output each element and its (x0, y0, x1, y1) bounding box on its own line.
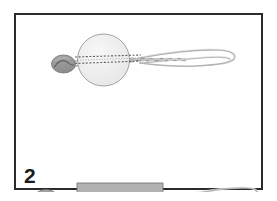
twisted-cord-top (130, 59, 186, 61)
step-number-label: 2 (24, 165, 36, 186)
circular-pad-assembly (52, 34, 236, 86)
toggle-oval-bottom (34, 190, 58, 193)
figure-root: 2 (0, 0, 277, 201)
figure-frame: 2 (14, 13, 263, 190)
cord-loop-bottom (171, 187, 259, 192)
rectangular-pad-body (77, 183, 163, 192)
figure-illustration (16, 15, 265, 192)
cord-loop-top (139, 49, 236, 66)
rectangular-pad-assembly (34, 183, 259, 192)
